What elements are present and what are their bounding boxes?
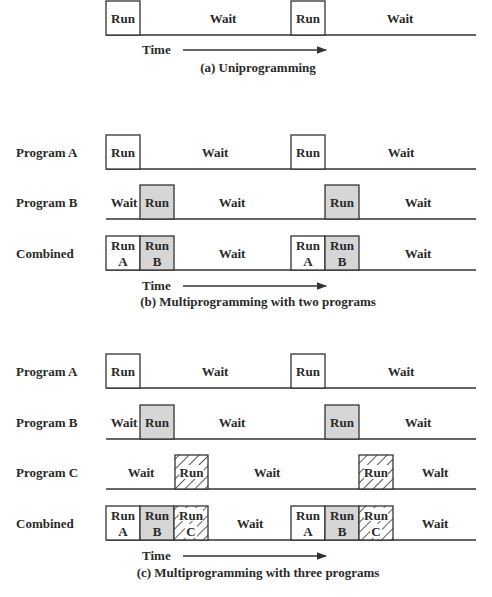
- timeline-row: Program BRunRunWaitWaitWait: [16, 405, 476, 439]
- wait-label: Wait: [388, 145, 415, 160]
- wait-label: Wait: [405, 415, 432, 430]
- run-label: Run: [364, 465, 389, 480]
- wait-label: Wait: [128, 465, 155, 480]
- row-label: Program A: [16, 364, 78, 379]
- run-label: Run: [330, 238, 355, 253]
- run-label: Run: [111, 11, 136, 26]
- run-label: Run: [330, 195, 355, 210]
- row-label: Program B: [16, 415, 78, 430]
- run-label: Run: [145, 415, 170, 430]
- run-label: B: [153, 254, 162, 269]
- panel-caption: (c) Multiprogramming with three programs: [137, 565, 380, 580]
- timeline-row: Program CRunRunWaitWaitWalt: [16, 455, 476, 489]
- time-label: Time: [142, 42, 171, 57]
- wait-label: Wait: [388, 364, 415, 379]
- multiprogramming-diagram: RunRunWaitWaitTime(a) UniprogrammingProg…: [0, 0, 492, 597]
- panel-b: Program ARunRunWaitWaitProgram BRunRunWa…: [16, 135, 476, 309]
- run-label: Run: [145, 238, 170, 253]
- run-label: Run: [179, 508, 204, 523]
- wait-label: Wait: [219, 195, 246, 210]
- run-label: B: [338, 524, 347, 539]
- panel-caption: (a) Uniprogramming: [200, 60, 316, 75]
- run-label: Run: [296, 145, 321, 160]
- timeline-row: Program ARunRunWaitWait: [16, 354, 476, 388]
- wait-label: Wait: [405, 246, 432, 261]
- wait-label: Wait: [254, 465, 281, 480]
- wait-label: Wait: [111, 415, 138, 430]
- run-label: Run: [145, 508, 170, 523]
- run-label: Run: [296, 238, 321, 253]
- wait-label: Wait: [202, 145, 229, 160]
- panel-c: Program ARunRunWaitWaitProgram BRunRunWa…: [16, 354, 476, 580]
- row-label: Combined: [16, 246, 75, 261]
- wait-label: Wait: [422, 516, 449, 531]
- row-label: Program B: [16, 195, 78, 210]
- wait-label: Walt: [422, 465, 449, 480]
- run-label: Run: [330, 415, 355, 430]
- time-label: Time: [142, 278, 171, 293]
- timeline-row: CombinedRunARunBRunCRunARunBRunCWaitWait: [16, 506, 476, 540]
- run-label: Run: [330, 508, 355, 523]
- run-label: Run: [296, 11, 321, 26]
- time-label: Time: [142, 548, 171, 563]
- run-label: Run: [296, 508, 321, 523]
- panel-a: RunRunWaitWaitTime(a) Uniprogramming: [106, 1, 476, 75]
- run-label: C: [186, 524, 195, 539]
- row-label: Combined: [16, 516, 75, 531]
- run-label: B: [338, 254, 347, 269]
- run-label: Run: [111, 508, 136, 523]
- timeline-row: Program BRunRunWaitWaitWait: [16, 185, 476, 219]
- run-label: A: [303, 524, 313, 539]
- wait-label: Wait: [210, 11, 237, 26]
- run-label: Run: [180, 465, 205, 480]
- timeline-row: Program ARunRunWaitWait: [16, 135, 476, 169]
- timeline-row: RunRunWaitWait: [106, 1, 476, 35]
- run-label: Run: [111, 364, 136, 379]
- wait-label: Wait: [202, 364, 229, 379]
- run-label: Run: [111, 145, 136, 160]
- run-label: Run: [364, 508, 389, 523]
- wait-label: Wait: [387, 11, 414, 26]
- wait-label: Wait: [219, 246, 246, 261]
- wait-label: Wait: [219, 415, 246, 430]
- run-label: A: [303, 254, 313, 269]
- run-label: Run: [145, 195, 170, 210]
- run-label: A: [118, 524, 128, 539]
- panel-caption: (b) Multiprogramming with two programs: [140, 294, 376, 309]
- wait-label: Wait: [111, 195, 138, 210]
- row-label: Program A: [16, 145, 78, 160]
- wait-label: Wait: [405, 195, 432, 210]
- run-label: Run: [111, 238, 136, 253]
- run-label: Run: [296, 364, 321, 379]
- run-label: C: [371, 524, 380, 539]
- run-label: B: [153, 524, 162, 539]
- wait-label: Wait: [237, 516, 264, 531]
- row-label: Program C: [16, 465, 78, 480]
- run-label: A: [118, 254, 128, 269]
- timeline-row: CombinedRunARunBRunARunBWaitWait: [16, 236, 476, 270]
